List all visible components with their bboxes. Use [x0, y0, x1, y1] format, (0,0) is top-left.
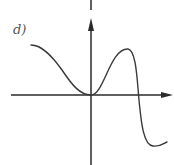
function-graph-figure: d)	[0, 0, 174, 165]
y-axis-arrow-icon	[88, 18, 94, 31]
graph-svg	[0, 0, 174, 165]
x-axis-arrow-icon	[161, 92, 173, 98]
